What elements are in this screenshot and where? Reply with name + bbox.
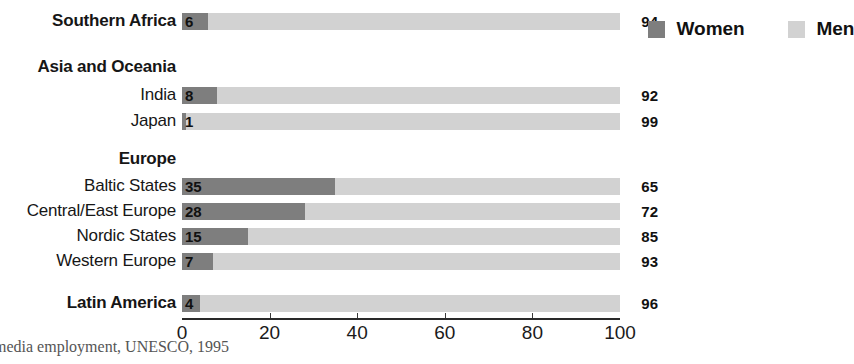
row-label: Nordic States — [0, 225, 176, 247]
stacked-bar: 1585 — [182, 228, 620, 245]
legend-swatch-men-icon — [788, 21, 805, 38]
row-label: Europe — [0, 148, 176, 170]
bar-value-women: 1 — [185, 113, 193, 130]
row-label: Baltic States — [0, 175, 176, 197]
row-label: Latin America — [0, 292, 176, 314]
row-label: Japan — [0, 110, 176, 132]
x-axis-tick — [357, 313, 358, 318]
x-axis-line — [182, 318, 620, 320]
chart-row: Japan199 — [0, 110, 832, 132]
stacked-bar: 199 — [182, 113, 620, 130]
x-axis-tick-label: 20 — [240, 322, 300, 344]
chart-row: Nordic States1585 — [0, 225, 832, 247]
bar-value-women: 6 — [185, 13, 193, 30]
bar-value-men: 96 — [624, 295, 658, 312]
bar-value-women: 35 — [185, 178, 202, 195]
bar-value-women: 4 — [185, 295, 193, 312]
legend-label-women: Women — [676, 18, 744, 40]
row-label: Western Europe — [0, 250, 176, 272]
stacked-bar: 694 — [182, 13, 620, 30]
bar-value-women: 15 — [185, 228, 202, 245]
bar-value-men: 65 — [624, 178, 658, 195]
x-axis-tick-label: 100 — [590, 322, 650, 344]
bar-value-women: 7 — [185, 253, 193, 270]
bar-value-men: 85 — [624, 228, 658, 245]
chart-row: Asia and Oceania — [0, 56, 832, 78]
stacked-bar: 2872 — [182, 203, 620, 220]
row-label: Central/East Europe — [0, 200, 176, 222]
stacked-bar: 3565 — [182, 178, 620, 195]
x-axis-tick — [270, 313, 271, 318]
row-label: Southern Africa — [0, 10, 176, 32]
legend-item-women[interactable]: Women — [648, 18, 745, 44]
legend-label-men: Men — [816, 18, 854, 40]
chart-row: Latin America496 — [0, 292, 832, 314]
stacked-bar: 496 — [182, 295, 620, 312]
bar-value-women: 8 — [185, 87, 193, 104]
legend-item-men[interactable]: Men — [788, 18, 854, 44]
bar-value-women: 28 — [185, 203, 202, 220]
stacked-bar: 892 — [182, 87, 620, 104]
x-axis-tick-label: 60 — [415, 322, 475, 344]
bar-value-men: 99 — [624, 113, 658, 130]
chart-row: Europe — [0, 148, 832, 170]
stacked-bar: 793 — [182, 253, 620, 270]
chart-row: Central/East Europe2872 — [0, 200, 832, 222]
chart-row: India892 — [0, 84, 832, 106]
bar-segment-women — [182, 178, 335, 195]
chart-row: Western Europe793 — [0, 250, 832, 272]
x-axis-tick-label: 40 — [327, 322, 387, 344]
chart-row: Baltic States3565 — [0, 175, 832, 197]
x-axis-tick — [532, 313, 533, 318]
bar-value-men: 93 — [624, 253, 658, 270]
x-axis-tick — [445, 313, 446, 318]
bar-value-men: 92 — [624, 87, 658, 104]
source-caption: media employment, UNESCO, 1995 — [0, 338, 229, 356]
bar-value-men: 72 — [624, 203, 658, 220]
row-label: India — [0, 84, 176, 106]
row-label: Asia and Oceania — [0, 56, 176, 78]
legend-swatch-women-icon — [648, 21, 665, 38]
x-axis-tick-label: 80 — [502, 322, 562, 344]
